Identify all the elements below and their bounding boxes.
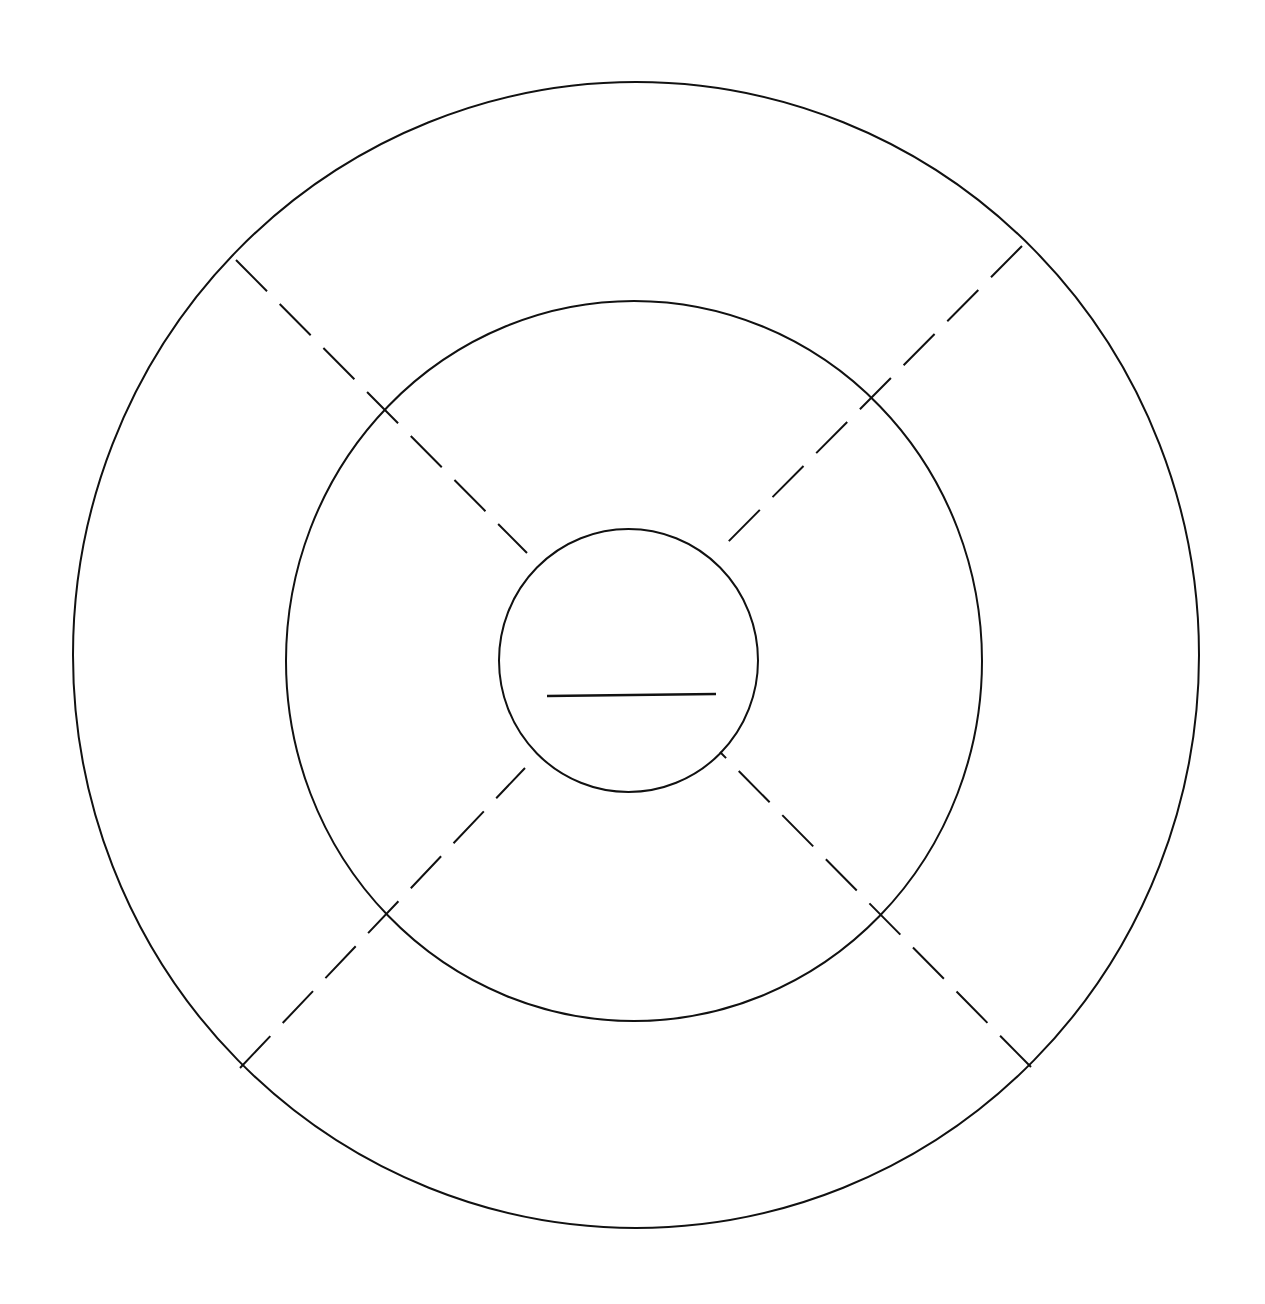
concentric-circle-diagram: [0, 0, 1265, 1304]
canvas-background: [0, 0, 1265, 1304]
